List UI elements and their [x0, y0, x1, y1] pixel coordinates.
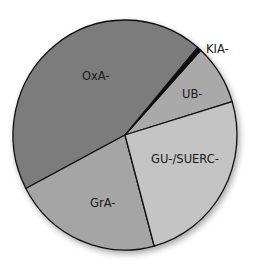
label-gra: GrA- [90, 196, 115, 210]
label-gu: GU-/SUERC- [151, 152, 219, 166]
label-oxa: OxA- [82, 69, 110, 83]
pie-slices [13, 20, 237, 250]
pie-chart: OxA- UB- KIA- GU-/SUERC- GrA- [0, 0, 253, 269]
label-kia: KIA- [206, 42, 229, 56]
label-ub: UB- [182, 87, 202, 101]
